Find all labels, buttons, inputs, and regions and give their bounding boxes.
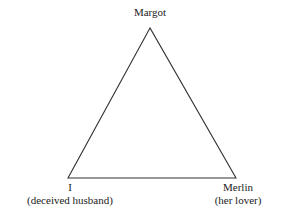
node-i: I (deceived husband) (10, 181, 130, 207)
node-margot: Margot (110, 6, 190, 19)
node-name: I (10, 181, 130, 194)
node-merlin: Merlin (her lover) (198, 181, 278, 207)
node-role: (her lover) (198, 194, 278, 207)
node-name: Merlin (198, 181, 278, 194)
triangle-shape (68, 28, 236, 178)
node-role: (deceived husband) (10, 194, 130, 207)
node-name: Margot (110, 6, 190, 19)
